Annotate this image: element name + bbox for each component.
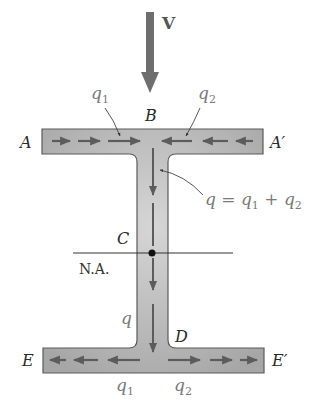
- point-label-d: D: [175, 329, 188, 345]
- point-label-a-prime: A′: [270, 135, 285, 151]
- point-label-a: A: [20, 135, 32, 151]
- eq-sign: =: [216, 189, 241, 209]
- load-arrow-icon: [141, 12, 159, 93]
- flow-label-bottom-left: q1: [116, 377, 134, 394]
- eq-term1-sub: 1: [252, 199, 259, 212]
- flow-label-web: q: [121, 310, 132, 327]
- flow-base: q: [91, 83, 102, 103]
- shear-flow-diagram: V q1 q2 B A A′ q = q1 + q2 C N.A. q D E …: [0, 0, 328, 401]
- point-label-e: E: [22, 353, 34, 369]
- eq-term1: q: [241, 189, 252, 209]
- point-label-b: B: [145, 108, 157, 124]
- flow-subscript: 1: [102, 93, 109, 106]
- eq-plus: +: [259, 189, 284, 209]
- flow-subscript: 2: [209, 93, 216, 106]
- centroid-dot: [149, 250, 156, 257]
- flow-subscript: 2: [185, 385, 192, 398]
- eq-term2: q: [284, 189, 295, 209]
- flow-label-top-left: q1: [91, 85, 109, 102]
- point-label-e-prime: E′: [272, 353, 287, 369]
- flow-label-top-right: q2: [198, 85, 216, 102]
- point-label-c: C: [117, 231, 129, 247]
- flow-base: q: [198, 83, 209, 103]
- load-label: V: [162, 15, 175, 32]
- neutral-axis-label: N.A.: [79, 262, 109, 276]
- flow-base: q: [116, 375, 127, 395]
- flow-equation: q = q1 + q2: [205, 191, 302, 208]
- flow-subscript: 1: [127, 385, 134, 398]
- eq-lhs: q: [205, 189, 216, 209]
- flow-label-bottom-right: q2: [174, 377, 192, 394]
- eq-term2-sub: 2: [295, 199, 302, 212]
- flow-base: q: [174, 375, 185, 395]
